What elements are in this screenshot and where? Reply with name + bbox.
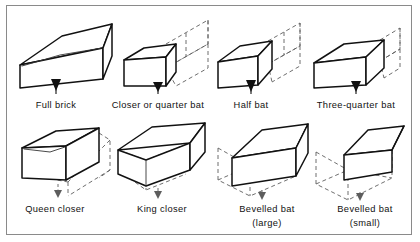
quarter-bat-ghost-right bbox=[176, 44, 208, 86]
king-leader-arrow bbox=[154, 191, 162, 199]
brick-bevelled-bat-small: Bevelled bat (small) bbox=[316, 126, 404, 228]
figure-page: Full brick Closer or quarter bat bbox=[0, 0, 420, 242]
bevel-sm-top-face bbox=[344, 126, 404, 155]
bevel-lg-label: Bevelled bat bbox=[239, 204, 294, 214]
half-bat-ghost-right bbox=[272, 46, 300, 82]
brick-closer-quarter-bat: Closer or quarter bat bbox=[112, 20, 208, 110]
quarter-bat-label: Closer or quarter bat bbox=[112, 100, 205, 110]
bevel-lg-label-line2: (large) bbox=[252, 218, 281, 228]
king-closer-label: King closer bbox=[137, 204, 187, 214]
bevel-lg-leader-arrow bbox=[258, 192, 266, 200]
quarter-bat-front-face bbox=[124, 57, 166, 86]
quarter-bat-leader-arrow bbox=[153, 82, 163, 92]
brick-king-closer: King closer bbox=[118, 123, 205, 214]
half-bat-ghost-top bbox=[268, 23, 300, 64]
queen-closer-label: Queen closer bbox=[25, 204, 85, 214]
tq-bat-label: Three-quarter bat bbox=[317, 100, 395, 110]
full-brick-label: Full brick bbox=[36, 100, 77, 110]
brick-three-quarter-bat: Three-quarter bat bbox=[314, 28, 400, 110]
brick-types-diagram: Full brick Closer or quarter bat bbox=[0, 0, 420, 242]
queen-leader-arrow bbox=[54, 190, 62, 198]
bevel-sm-label: Bevelled bat bbox=[337, 204, 392, 214]
brick-queen-closer: Queen closer bbox=[22, 128, 110, 214]
bevel-sm-ghost-c bbox=[316, 152, 348, 170]
half-bat-label: Half bat bbox=[234, 100, 269, 110]
brick-bevelled-bat-large: Bevelled bat (large) bbox=[218, 124, 308, 228]
bevel-sm-label-line2: (small) bbox=[350, 218, 380, 228]
bevel-sm-ghost-a bbox=[316, 170, 348, 184]
bevel-sm-leader-arrow bbox=[356, 193, 364, 201]
brick-full-brick: Full brick bbox=[20, 24, 112, 110]
bevel-sm-front-face bbox=[344, 150, 392, 180]
brick-half-bat: Half bat bbox=[218, 23, 300, 110]
